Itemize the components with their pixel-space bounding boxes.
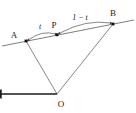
vertex-dot-B <box>112 23 115 26</box>
label-parameter-one-minus-t: 1 − t <box>72 13 88 22</box>
segment-OB <box>57 24 113 94</box>
label-point-O: O <box>58 99 65 109</box>
diagram-canvas: A P B O t 1 − t <box>0 0 136 113</box>
label-point-P: P <box>51 20 56 30</box>
label-parameter-t: t <box>39 22 42 31</box>
label-point-B: B <box>110 8 116 18</box>
measure-arc-one-minus-t <box>60 22 111 33</box>
geometry-diagram: A P B O t 1 − t <box>0 0 136 113</box>
label-point-A: A <box>11 30 18 40</box>
vertex-dot-A <box>25 40 28 43</box>
vertex-dot-P <box>56 33 59 36</box>
segment-OA <box>26 41 57 94</box>
